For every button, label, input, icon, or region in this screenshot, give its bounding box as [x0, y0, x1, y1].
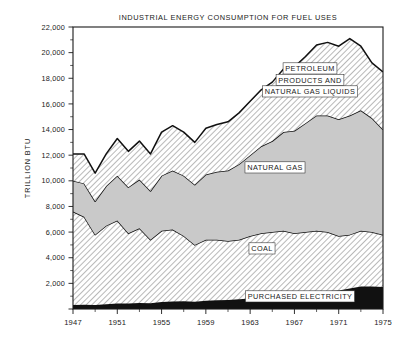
x-tick-label: 1963 [241, 318, 259, 327]
label-petroleum-products-text: NATURAL GAS LIQUIDS [265, 87, 355, 96]
label-coal-text: COAL [251, 244, 273, 253]
x-tick-label: 1975 [374, 318, 392, 327]
y-tick-label: 16,000 [41, 100, 65, 109]
y-tick-label: 10,000 [41, 176, 65, 185]
y-axis-title: TRILLION BTU [23, 138, 32, 198]
y-tick-label: 8,000 [46, 202, 65, 211]
label-purchased-electricity-text: PURCHASED ELECTRICITY [248, 292, 353, 301]
y-tick-label: 22,000 [41, 23, 65, 32]
x-tick-label: 1951 [108, 318, 126, 327]
label-petroleum-products-text: PETROLEUM [285, 64, 334, 73]
label-purchased-electricity: PURCHASED ELECTRICITY [245, 291, 354, 302]
y-tick-label: 4,000 [46, 253, 65, 262]
y-tick-label: 12,000 [41, 151, 65, 160]
x-tick-label: 1947 [64, 318, 82, 327]
y-tick-label: 2,000 [46, 279, 65, 288]
y-tick-label: 20,000 [41, 48, 65, 57]
x-tick-label: 1959 [197, 318, 215, 327]
label-coal: COAL [249, 243, 275, 254]
chart-container: INDUSTRIAL ENERGY CONSUMPTION FOR FUEL U… [0, 0, 410, 350]
y-tick-label: 14,000 [41, 125, 65, 134]
label-natural-gas: NATURAL GAS [245, 162, 305, 173]
y-tick-label: 18,000 [41, 74, 65, 83]
x-tick-label: 1955 [153, 318, 171, 327]
page-title: INDUSTRIAL ENERGY CONSUMPTION FOR FUEL U… [119, 13, 337, 22]
y-tick-label: 6,000 [46, 228, 65, 237]
x-tick-label: 1967 [286, 318, 304, 327]
industrial-energy-area-chart: INDUSTRIAL ENERGY CONSUMPTION FOR FUEL U… [0, 0, 410, 350]
label-natural-gas-text: NATURAL GAS [247, 163, 303, 172]
label-petroleum-products-text: PRODUCTS AND [278, 76, 341, 85]
x-tick-label: 1971 [330, 318, 348, 327]
